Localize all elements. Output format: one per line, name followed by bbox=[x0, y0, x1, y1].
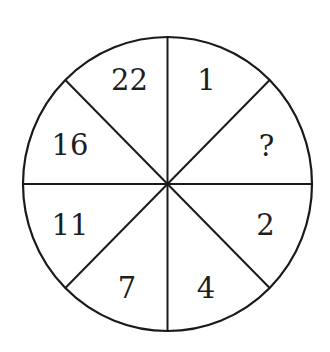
sector-top-right-value: 1 bbox=[197, 63, 215, 97]
center-point bbox=[166, 182, 170, 186]
sector-left-lower-value: 11 bbox=[52, 208, 89, 242]
sector-right-lower-value: 2 bbox=[256, 208, 274, 242]
sector-top-left-value: 22 bbox=[111, 63, 148, 97]
sector-bottom-left-value: 7 bbox=[118, 271, 136, 305]
sector-right-upper-value: ? bbox=[259, 129, 275, 163]
sector-bottom-right-value: 4 bbox=[197, 271, 215, 305]
number-wheel-puzzle: 22 1 ? 2 4 7 11 16 bbox=[0, 0, 330, 352]
sector-left-upper-value: 16 bbox=[52, 128, 89, 162]
wheel-diagram: 22 1 ? 2 4 7 11 16 bbox=[0, 0, 330, 352]
